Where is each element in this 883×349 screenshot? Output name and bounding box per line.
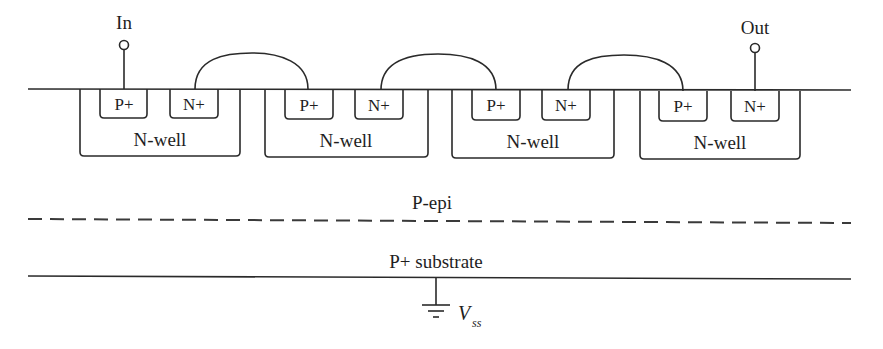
p-plus-label: P+ (673, 97, 692, 116)
p-plus-label: P+ (114, 95, 133, 114)
silicon-surface-line (28, 89, 851, 90)
interconnect-arc-3 (568, 55, 683, 91)
n-well-label: N-well (507, 131, 560, 152)
n-well-1: P+ N+ N-well (80, 89, 240, 156)
p-plus-label: P+ (299, 96, 318, 115)
input-terminal: In (116, 12, 132, 89)
n-well-label: N-well (134, 129, 187, 150)
epi-boundary-dashed-line (28, 219, 851, 223)
cross-section-diagram: P+ N+ N-well P+ N+ N-well P+ N+ N-well P… (0, 0, 883, 349)
input-node-icon (120, 41, 129, 50)
n-well-label: N-well (320, 130, 373, 151)
n-plus-label: N+ (183, 95, 205, 114)
n-well-3: P+ N+ N-well (452, 90, 614, 158)
output-node-icon (751, 44, 760, 53)
p-plus-label: P+ (486, 96, 505, 115)
interconnect-arc-1 (195, 53, 308, 89)
output-terminal: Out (741, 17, 770, 91)
vss-label-main: V (458, 302, 473, 324)
p-epi-label: P-epi (412, 192, 452, 213)
n-well-4: P+ N+ N-well (640, 91, 800, 159)
input-label: In (116, 12, 132, 33)
n-plus-label: N+ (555, 96, 577, 115)
n-well-2: P+ N+ N-well (265, 90, 428, 157)
interconnect-arc-2 (381, 54, 496, 90)
vss-label-subscript: ss (472, 316, 482, 330)
n-plus-label: N+ (744, 97, 766, 116)
n-well-label: N-well (694, 132, 747, 153)
substrate-line (28, 276, 851, 279)
n-plus-label: N+ (368, 96, 390, 115)
ground-symbol: V ss (422, 278, 482, 330)
substrate-label: P+ substrate (389, 251, 483, 272)
output-label: Out (741, 17, 770, 38)
